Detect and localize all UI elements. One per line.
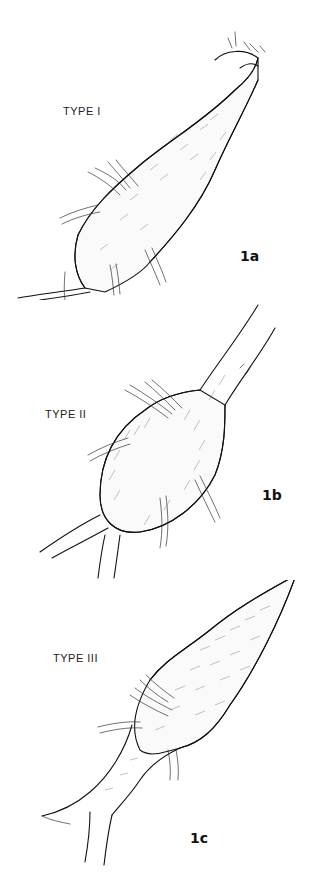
figure-label: 1b	[262, 487, 282, 503]
figure-type-1: TYPE I 1a	[0, 0, 316, 300]
type-label: TYPE II	[45, 408, 86, 420]
aneurysm-type-1-illustration	[0, 0, 316, 300]
type-label: TYPE III	[53, 652, 98, 664]
figure-label: 1c	[190, 830, 208, 846]
figure-type-3: TYPE III 1c	[0, 580, 316, 878]
aneurysm-type-3-illustration	[0, 580, 316, 878]
aneurysm-type-2-illustration	[0, 290, 316, 580]
figure-label: 1a	[240, 248, 259, 264]
type-label: TYPE I	[63, 105, 101, 117]
figure-type-2: TYPE II 1b	[0, 290, 316, 580]
